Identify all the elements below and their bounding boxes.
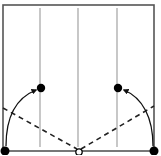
corner-dot-bottom-left [1,147,10,156]
target-dot-left [37,84,45,92]
pivot-circle-center [76,149,82,155]
fold-arrows [6,90,153,146]
target-dot-right [114,84,122,92]
corner-dot-bottom-right [150,147,159,156]
fold-diagram [0,0,161,155]
fold-arrow-right [124,90,153,146]
crease-lines [40,8,117,147]
reference-points [1,84,159,155]
